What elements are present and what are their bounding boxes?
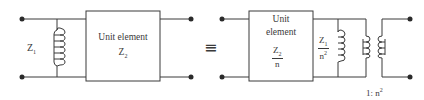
z1-over-n2-fraction: Z1 n2 <box>318 36 329 61</box>
terminal-mid-bottom-icon <box>189 75 194 80</box>
z2-over-n-numerator: Z2 <box>272 46 283 59</box>
transformer-primary-icon <box>363 36 370 58</box>
z1-over-n2-denominator-power: 2 <box>324 50 327 56</box>
unit-element-title: Unit element <box>86 33 160 43</box>
z1-over-n2-denominator: n2 <box>320 49 328 61</box>
terminal-right-out-bottom-icon <box>408 75 413 80</box>
z1-over-n2-subscript: 1 <box>325 41 328 47</box>
terminal-left-top-icon <box>20 17 25 22</box>
terminal-right-in-bottom-icon <box>220 75 225 80</box>
z1-subscript: 1 <box>33 49 36 55</box>
unit-element-scaled-label: Unit element <box>249 15 313 37</box>
z2-over-n-fraction: Z2 n <box>272 46 283 69</box>
turns-ratio-power: 2 <box>380 87 383 93</box>
unit-element-scaled-title-line1: Unit <box>249 15 313 25</box>
terminal-right-out-top-icon <box>408 17 413 22</box>
z1-over-n2-numerator: Z1 <box>318 36 329 49</box>
z2-over-n-denominator: n <box>275 59 280 69</box>
terminal-left-bottom-icon <box>20 75 25 80</box>
unit-element-label: Unit element Z2 <box>86 33 160 58</box>
transformer-secondary-icon <box>378 36 385 58</box>
z2-over-n-subscript: 2 <box>279 51 282 57</box>
terminal-right-in-top-icon <box>220 17 225 22</box>
equivalence-symbol: ≡ <box>204 40 217 56</box>
turns-ratio-label: 1: n2 <box>366 87 383 98</box>
unit-element-scaled-title-line2: element <box>249 28 313 38</box>
z1-label: Z1 <box>27 43 36 55</box>
z2-label: Z2 <box>86 48 160 59</box>
z2-subscript: 2 <box>124 52 127 58</box>
turns-ratio-prefix: 1: n <box>366 88 380 98</box>
inductor-z1-icon <box>54 28 65 66</box>
terminal-mid-top-icon <box>189 17 194 22</box>
inductor-z1-over-n2-icon <box>338 30 345 62</box>
